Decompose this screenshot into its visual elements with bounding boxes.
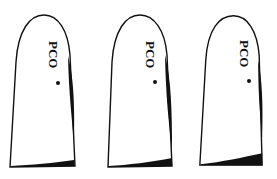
- marker-dot-1: [56, 81, 60, 85]
- pco-capsule-diagram: PCO PCO PCO: [0, 0, 277, 179]
- pco-label-1: PCO: [47, 41, 60, 68]
- capsule-outline-3: [184, 0, 276, 179]
- capsule-panel-1: PCO: [0, 0, 92, 179]
- capsule-outline-2: [92, 0, 184, 179]
- marker-dot-3: [247, 79, 251, 83]
- marker-dot-2: [153, 80, 157, 84]
- capsule-panel-3: PCO: [184, 0, 276, 179]
- pco-label-2: PCO: [144, 41, 157, 68]
- capsule-panel-2: PCO: [92, 0, 184, 179]
- pco-label-3: PCO: [238, 40, 251, 67]
- capsule-outline-1: [0, 0, 92, 179]
